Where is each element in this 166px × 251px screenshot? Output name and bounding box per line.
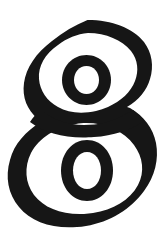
numeral-eight-svg (0, 0, 166, 251)
numeral-eight-glyph (0, 0, 166, 251)
glyph-lower-counter-hole (73, 152, 101, 189)
glyph-upper-counter-hole (74, 66, 99, 94)
page-canvas: 8 (0, 0, 166, 251)
